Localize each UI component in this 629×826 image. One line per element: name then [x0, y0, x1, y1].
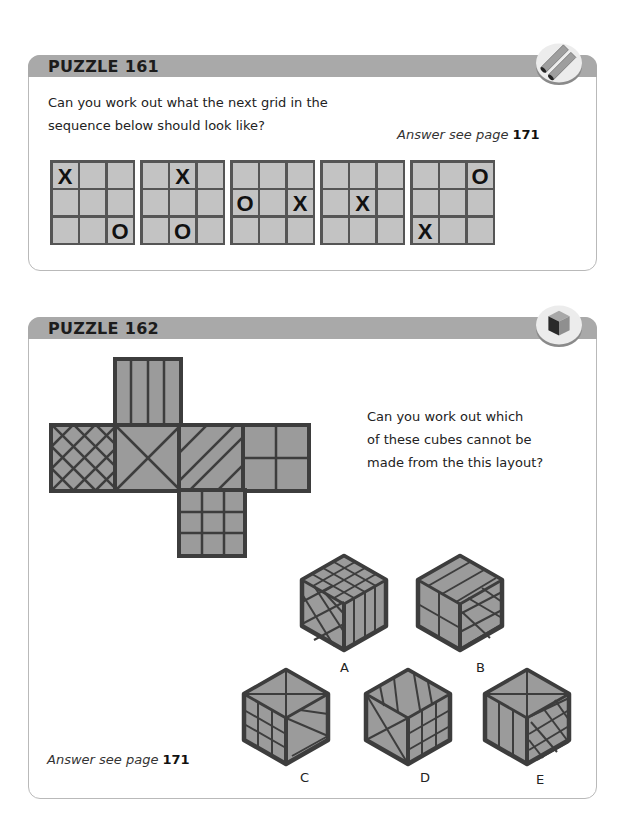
answer-page: 171	[163, 752, 190, 767]
cube-b[interactable]	[418, 556, 502, 650]
cube-d[interactable]	[366, 670, 450, 764]
cube-options	[0, 0, 629, 826]
cube-e[interactable]	[485, 670, 569, 764]
cube-label-e: E	[536, 772, 544, 787]
cube-a[interactable]	[302, 556, 386, 650]
cube-label-c: C	[300, 770, 309, 785]
cube-c[interactable]	[244, 670, 328, 764]
puzzle-162-answer-ref: Answer see page 171	[47, 752, 190, 767]
cube-label-b: B	[476, 660, 485, 675]
answer-prefix: Answer see page	[47, 752, 163, 767]
cube-label-d: D	[420, 770, 430, 785]
cube-label-a: A	[340, 660, 349, 675]
